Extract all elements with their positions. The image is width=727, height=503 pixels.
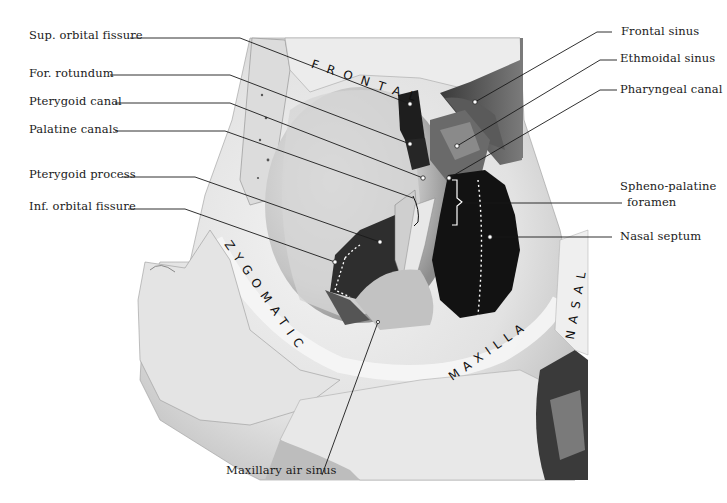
label-foramen: foramen <box>627 196 676 209</box>
label-inf-orbital-fissure: Inf. orbital fissure <box>29 200 136 213</box>
label-pterygoid-canal: Pterygoid canal <box>29 95 122 108</box>
label-nasal-septum: Nasal septum <box>620 230 701 243</box>
label-pharyngeal-canal: Pharyngeal canal <box>620 83 723 96</box>
label-frontal-sinus: Frontal sinus <box>621 25 699 38</box>
anatomy-figure: FRONTAL ZYGOMATIC MAXILLA NASAL Sup. orb… <box>0 0 727 503</box>
label-ethmoidal-sinus: Ethmoidal sinus <box>620 52 715 65</box>
label-palatine-canals: Palatine canals <box>29 123 118 136</box>
label-pterygoid-process: Pterygoid process <box>29 168 136 181</box>
label-sup-orbital-fissure: Sup. orbital fissure <box>29 29 143 42</box>
label-maxillary-air-sinus: Maxillary air sinus <box>226 464 337 477</box>
nasal-cavity <box>432 170 520 318</box>
label-spheno-palatine: Spheno-palatine <box>620 180 716 193</box>
label-for-rotundum: For. rotundum <box>29 67 114 80</box>
